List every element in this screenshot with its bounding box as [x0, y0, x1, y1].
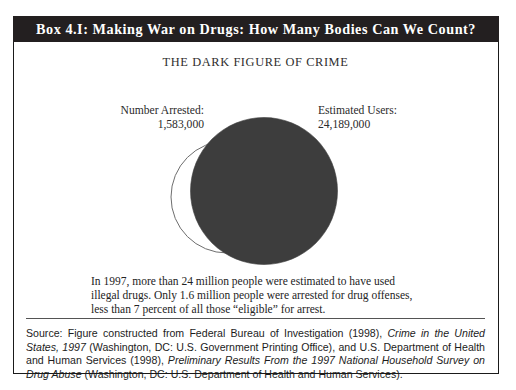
- figure-box: Box 4.I: Making War on Drugs: How Many B…: [13, 16, 499, 374]
- proportional-circles-chart: [14, 42, 497, 310]
- label-estimated-users-title: Estimated Users:: [318, 104, 468, 118]
- label-estimated-users: Estimated Users: 24,189,000: [318, 104, 468, 131]
- figure-note: In 1997, more than 24 million people wer…: [91, 274, 421, 317]
- label-number-arrested-title: Number Arrested:: [74, 104, 204, 118]
- figure-area: THE DARK FIGURE OF CRIME Number Arrested…: [14, 42, 497, 310]
- source-note: Source: Figure constructed from Federal …: [26, 327, 485, 381]
- circle-estimated-users: [191, 118, 338, 265]
- source-divider: [26, 318, 485, 319]
- label-number-arrested: Number Arrested: 1,583,000: [74, 104, 204, 131]
- box-title: Box 4.I: Making War on Drugs: How Many B…: [13, 16, 499, 42]
- label-estimated-users-value: 24,189,000: [318, 118, 468, 132]
- box-header-bar: Box 4.I: Making War on Drugs: How Many B…: [13, 16, 499, 42]
- box-body-panel: THE DARK FIGURE OF CRIME Number Arrested…: [13, 42, 499, 374]
- label-number-arrested-value: 1,583,000: [74, 118, 204, 132]
- source-prefix: Source: Figure constructed from Federal …: [26, 327, 387, 339]
- source-suffix: (Washington, DC: U.S. Department of Heal…: [82, 368, 403, 380]
